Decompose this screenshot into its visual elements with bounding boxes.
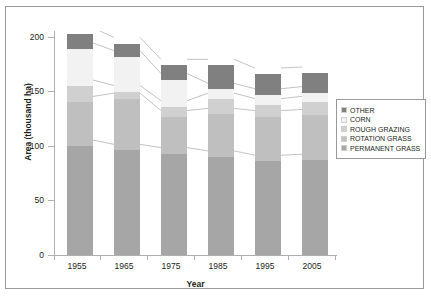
bar-segment[interactable]	[114, 150, 140, 255]
legend-item-label: PERMANENT GRASS	[350, 145, 420, 152]
bar-segment[interactable]	[302, 115, 328, 160]
legend-item[interactable]: CORN	[341, 116, 422, 123]
stack-connector-ribbons	[54, 31, 330, 255]
bar-segment[interactable]	[255, 95, 281, 105]
legend-swatch-icon	[341, 107, 347, 113]
x-tick-mark-5	[288, 256, 289, 260]
bar-segment[interactable]	[161, 107, 187, 117]
legend-swatch-icon	[341, 145, 347, 151]
x-tick-mark-end	[335, 256, 336, 260]
bar-segment[interactable]	[114, 92, 140, 100]
x-tick-label-1955: 1955	[54, 261, 100, 271]
x-tick-label-2005: 2005	[289, 261, 335, 271]
bar-segment[interactable]	[67, 49, 93, 86]
y-axis-title: Area (thousand ha)	[23, 52, 33, 192]
bar-segment[interactable]	[67, 146, 93, 255]
bar-segment[interactable]	[208, 89, 234, 99]
legend-swatch-icon	[341, 136, 347, 142]
stacked-bar[interactable]	[302, 73, 328, 255]
bar-segment[interactable]	[67, 86, 93, 102]
x-tick-mark-4	[241, 256, 242, 260]
stacked-bar[interactable]	[161, 65, 187, 255]
legend-item-label: OTHER	[350, 107, 375, 114]
legend-item[interactable]: ROTATION GRASS	[341, 135, 422, 142]
bar-segment[interactable]	[114, 99, 140, 150]
legend-item[interactable]: OTHER	[341, 107, 422, 114]
legend-item-label: ROTATION GRASS	[350, 135, 412, 142]
bar-segment[interactable]	[161, 65, 187, 79]
plot-area	[54, 31, 330, 255]
legend-swatch-icon	[341, 117, 347, 123]
bar-segment[interactable]	[67, 34, 93, 49]
x-tick-label-1975: 1975	[148, 261, 194, 271]
legend-item-label: CORN	[350, 116, 371, 123]
bar-segment[interactable]	[302, 93, 328, 103]
bar-segment[interactable]	[255, 117, 281, 162]
bar-segment[interactable]	[208, 99, 234, 114]
x-axis-line	[54, 255, 337, 256]
legend-item[interactable]: ROUGH GRAZING	[341, 126, 422, 133]
bar-segment[interactable]	[161, 154, 187, 255]
x-tick-label-1995: 1995	[242, 261, 288, 271]
chart-legend: OTHERCORNROUGH GRAZINGROTATION GRASSPERM…	[336, 99, 426, 159]
bar-segment[interactable]	[208, 157, 234, 255]
bar-segment[interactable]	[302, 160, 328, 255]
bar-segment[interactable]	[255, 105, 281, 117]
y-tick-label-200: 200	[14, 33, 44, 42]
y-tick-label-50: 50	[14, 196, 44, 205]
bar-segment[interactable]	[255, 74, 281, 95]
bar-segment[interactable]	[161, 80, 187, 107]
stacked-bar[interactable]	[255, 74, 281, 255]
stacked-bar[interactable]	[208, 65, 234, 255]
legend-item-label: ROUGH GRAZING	[350, 126, 410, 133]
legend-swatch-icon	[341, 126, 347, 132]
x-tick-mark-3	[194, 256, 195, 260]
bar-segment[interactable]	[208, 114, 234, 157]
bar-segment[interactable]	[114, 57, 140, 92]
x-tick-label-1965: 1965	[101, 261, 147, 271]
bar-segment[interactable]	[114, 44, 140, 57]
bar-segment[interactable]	[302, 102, 328, 115]
bar-segment[interactable]	[161, 117, 187, 154]
y-tick-label-0: 0	[14, 251, 44, 260]
x-tick-label-1985: 1985	[195, 261, 241, 271]
stacked-bar[interactable]	[67, 34, 93, 255]
bar-segment[interactable]	[302, 73, 328, 93]
x-tick-mark-2	[147, 256, 148, 260]
x-tick-mark-start	[54, 256, 55, 260]
x-tick-mark-1	[100, 256, 101, 260]
chart-figure-frame: 200 150 100 50 0 Area (thousand ha) 1955…	[5, 6, 424, 289]
bar-segment[interactable]	[255, 161, 281, 255]
stacked-bar[interactable]	[114, 44, 140, 255]
legend-item[interactable]: PERMANENT GRASS	[341, 145, 422, 152]
bar-segment[interactable]	[67, 102, 93, 146]
bar-segment[interactable]	[208, 65, 234, 89]
x-axis-title: Year	[54, 279, 337, 289]
